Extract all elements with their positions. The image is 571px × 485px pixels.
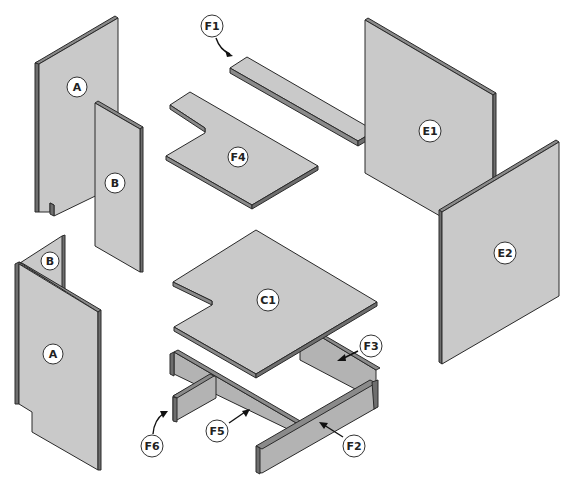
label-f1: F1 (204, 20, 219, 33)
callout-e2: E2 (494, 242, 516, 264)
callout-b-upper: B (105, 173, 125, 193)
callout-b-lower: B (41, 252, 59, 270)
label-e2: E2 (497, 247, 512, 260)
callout-c1: C1 (257, 289, 279, 311)
label-a-lower: A (49, 348, 58, 361)
callout-f5: F5 (206, 409, 250, 442)
callout-f6: F6 (141, 411, 168, 457)
label-b-lower: B (46, 255, 54, 268)
callout-f1: F1 (201, 15, 233, 57)
callout-e1: E1 (419, 120, 441, 142)
exploded-assembly-diagram: A B B A F1 (0, 0, 571, 485)
label-f6: F6 (144, 440, 160, 453)
part-f2-rail (256, 380, 378, 474)
label-e1: E1 (422, 125, 437, 138)
callout-f4: F4 (228, 147, 248, 167)
label-f2: F2 (346, 440, 361, 453)
label-f5: F5 (209, 425, 224, 438)
label-b-upper: B (111, 177, 119, 190)
callout-a-lower: A (43, 344, 63, 364)
label-f4: F4 (230, 151, 246, 164)
label-f3: F3 (363, 340, 378, 353)
label-a-upper: A (73, 81, 82, 94)
label-c1: C1 (260, 294, 276, 307)
callout-a-upper: A (67, 77, 87, 97)
part-a-lower-panel (15, 262, 101, 470)
diagram-canvas: A B B A F1 (0, 0, 571, 485)
